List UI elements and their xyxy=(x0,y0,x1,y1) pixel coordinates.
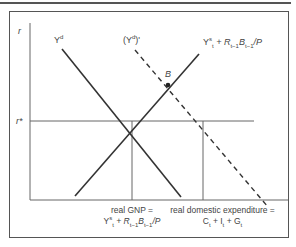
shifted-demand-label: (Yd)' xyxy=(123,36,140,45)
demand-label-sup: d xyxy=(60,34,63,40)
gnp-caption-line2: Yst + Rt−1Bt−1/P xyxy=(95,216,169,227)
point-b-marker xyxy=(166,83,171,88)
gnp-plus-r: + R xyxy=(114,216,130,226)
point-b-label: B xyxy=(165,70,171,79)
supply-label-tail: /P xyxy=(254,37,263,47)
supply-label-plus: + R xyxy=(214,37,231,47)
demand-curve xyxy=(62,49,181,197)
shifted-demand-label-tail: )' xyxy=(135,35,140,45)
exp-plus-g: + G xyxy=(224,216,240,226)
expenditure-caption-line2: Ct + It + Gt xyxy=(165,216,280,227)
y-axis-label: r xyxy=(18,27,21,36)
supply-label-sub2: t−1 xyxy=(230,43,239,49)
demand-curve-label: Yd xyxy=(54,36,63,45)
supply-curve xyxy=(75,54,199,196)
gnp-y-sup: s xyxy=(109,215,112,221)
supply-curve-label: Yst + Rt−1Bt−1/P xyxy=(203,38,262,47)
supply-label-sub3: t−1 xyxy=(245,43,254,49)
r-star-label: r* xyxy=(16,117,23,126)
supply-label-sup: s xyxy=(209,36,212,42)
expenditure-caption-line1: real domestic expenditure = xyxy=(165,205,280,216)
shifted-demand-label-base: (Y xyxy=(123,35,132,45)
expenditure-caption: real domestic expenditure = Ct + It + Gt xyxy=(165,205,280,226)
gnp-r-sub: t−1 xyxy=(130,221,139,227)
exp-plus-i: + I xyxy=(211,216,223,226)
gnp-caption: real GNP = Yst + Rt−1Bt−1/P xyxy=(95,205,169,226)
gnp-tail: /P xyxy=(152,216,160,226)
exp-g-sub: t xyxy=(241,221,243,227)
shifted-demand-curve xyxy=(135,50,268,207)
gnp-caption-line1: real GNP = xyxy=(95,205,169,216)
